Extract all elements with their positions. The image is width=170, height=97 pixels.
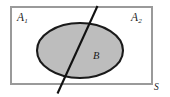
label-a1: A1: [17, 12, 28, 24]
label-s-text: S: [154, 82, 159, 92]
venn-diagram-figure: A1 A2 B S: [0, 0, 170, 97]
label-s: S: [154, 83, 159, 93]
label-a2: A2: [131, 12, 142, 24]
label-a2-subscript: 2: [138, 17, 142, 25]
label-b-text: B: [93, 50, 99, 61]
label-a2-text: A: [131, 11, 138, 23]
label-a1-text: A: [17, 11, 24, 23]
label-a1-subscript: 1: [24, 17, 28, 25]
label-b: B: [93, 51, 99, 62]
set-b-ellipse: [37, 23, 123, 78]
